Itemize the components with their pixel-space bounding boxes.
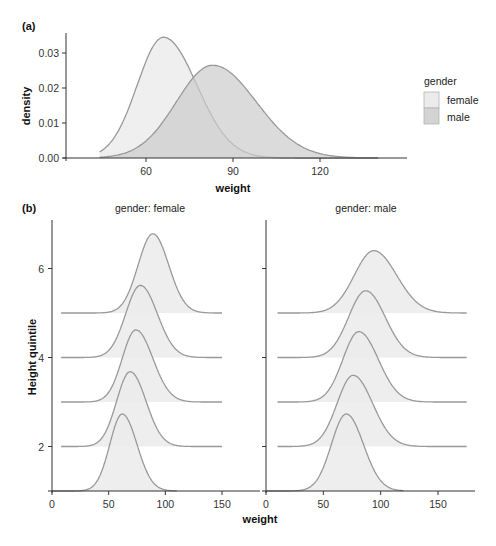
legend-swatch-female — [424, 92, 439, 108]
x-tick-label: 90 — [227, 165, 239, 177]
y-tick-label: 6 — [38, 263, 44, 275]
legend-title: gender — [424, 75, 457, 87]
figure: (a) 0.000.010.020.036090120 weight densi… — [0, 0, 496, 546]
y-tick-label: 0.00 — [39, 152, 60, 164]
x-tick-label: 50 — [317, 498, 329, 510]
x-axis-title-b: weight — [242, 513, 278, 525]
y-tick-label: 0.03 — [39, 47, 60, 59]
panel-a-label: (a) — [22, 20, 36, 32]
x-tick-label: 60 — [140, 165, 152, 177]
panel-a-density-plot: (a) 0.000.010.020.036090120 weight densi… — [20, 20, 479, 194]
density-curves — [100, 37, 378, 158]
x-tick-label: 150 — [429, 498, 447, 510]
x-axis-title: weight — [215, 182, 251, 194]
facet-male — [266, 251, 467, 491]
legend-label-male: male — [447, 111, 470, 123]
x-tick-label: 0 — [49, 498, 55, 510]
facet-female — [52, 234, 222, 491]
y-axis-title-b: Height quintile — [26, 319, 38, 395]
panel-b-label: (b) — [22, 202, 36, 214]
facet-strip-male: gender: male — [335, 202, 396, 214]
x-tick-label: 0 — [263, 498, 269, 510]
x-tick-label: 120 — [311, 165, 329, 177]
panel-b-ridgeline-plot: (b) gender: female gender: male 24605010… — [22, 202, 475, 525]
y-tick-label: 4 — [38, 352, 44, 364]
x-tick-label: 50 — [103, 498, 115, 510]
y-tick-label: 0.01 — [39, 117, 60, 129]
legend-label-female: female — [447, 94, 479, 106]
y-axis-title: density — [20, 86, 32, 125]
x-tick-label: 150 — [213, 498, 231, 510]
legend-swatch-male — [424, 108, 439, 124]
y-tick-label: 2 — [38, 441, 44, 453]
legend: gender female male — [424, 75, 479, 124]
y-tick-label: 0.02 — [39, 82, 60, 94]
x-tick-label: 100 — [157, 498, 175, 510]
x-tick-label: 100 — [372, 498, 390, 510]
facet-strip-female: gender: female — [115, 202, 185, 214]
